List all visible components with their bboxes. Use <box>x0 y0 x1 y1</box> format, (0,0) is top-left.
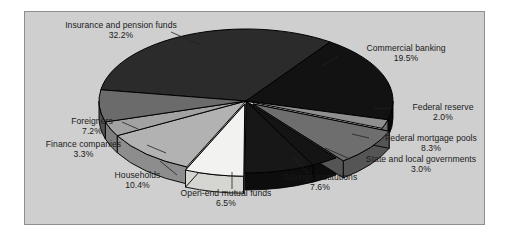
pie-label-name: State and local governments <box>366 154 476 164</box>
pie-label-insurance-and-pension-funds: Insurance and pension funds 32.2% <box>46 20 196 40</box>
pie-label-value: 6.5% <box>166 198 286 208</box>
pie-label-finance-companies: Finance companies 3.3% <box>24 139 146 159</box>
pie-label-federal-mortgage-pools: Federal mortgage pools 8.3% <box>371 133 485 153</box>
pie-label-name: Federal mortgage pools <box>385 133 477 143</box>
pie-label-value: 3.3% <box>24 149 146 159</box>
pie-label-value: 19.5% <box>341 53 471 63</box>
pie-label-value: 8.3% <box>371 143 485 153</box>
pie-label-value: 2.0% <box>393 112 485 122</box>
pie-label-households: Households 10.4% <box>85 170 190 190</box>
pie-label-name: Commercial banking <box>366 43 445 53</box>
pie-label-open-end-mutual-funds: Open-end mutual funds 6.5% <box>166 188 286 208</box>
pie-label-federal-reserve: Federal reserve 2.0% <box>393 102 485 122</box>
pie-label-commercial-banking: Commercial banking 19.5% <box>341 43 471 63</box>
pie-chart-panel: Insurance and pension funds 32.2% Commer… <box>24 11 485 225</box>
pie-label-name: Federal reserve <box>413 102 474 112</box>
pie-label-name: Households <box>115 170 161 180</box>
pie-label-value: 10.4% <box>85 180 190 190</box>
pie-label-name: Foreigners <box>71 116 113 126</box>
pie-label-value: 32.2% <box>46 30 196 40</box>
pie-label-name: Savings institutions <box>283 172 358 182</box>
pie-label-name: Open-end mutual funds <box>181 188 272 198</box>
pie-label-value: 7.2% <box>47 126 137 136</box>
pie-label-name: Finance companies <box>46 139 121 149</box>
pie-label-foreigners: Foreigners 7.2% <box>47 116 137 136</box>
pie-label-name: Insurance and pension funds <box>65 20 177 30</box>
